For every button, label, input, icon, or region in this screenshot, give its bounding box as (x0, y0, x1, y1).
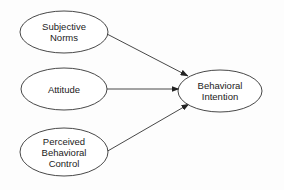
label-line: Subjective (42, 21, 86, 32)
edges-layer (106, 34, 189, 152)
node-label-attitude: Attitude (48, 84, 80, 95)
node-label-subjective-norms: Subjective Norms (42, 21, 86, 43)
node-label-perceived-behavioral-control: Perceived Behavioral Control (42, 136, 87, 169)
label-line: Behavioral (42, 147, 87, 158)
label-line: Norms (42, 32, 86, 43)
label-line: Perceived (42, 136, 87, 147)
node-label-behavioral-intention: Behavioral Intention (198, 80, 243, 102)
diagram-canvas: Subjective Norms Attitude Perceived Beha… (0, 0, 284, 190)
label-line: Behavioral (198, 80, 243, 91)
arrow-subjective-norms-to-behavioral-intention (107, 34, 188, 76)
label-line: Control (42, 158, 87, 169)
label-line: Intention (198, 91, 243, 102)
arrow-perceived-behavioral-control-to-behavioral-intention (106, 104, 189, 152)
label-line: Attitude (48, 84, 80, 95)
